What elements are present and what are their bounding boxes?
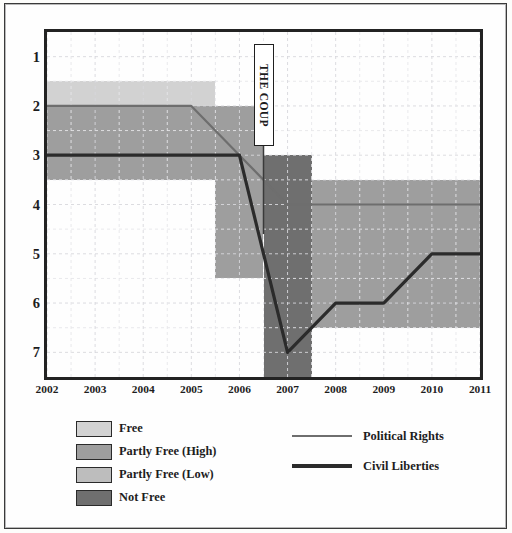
legend-item: Political Rights bbox=[292, 421, 444, 451]
legend-color-swatch bbox=[76, 467, 112, 483]
y-axis-tick-label: 3 bbox=[14, 147, 40, 164]
legend-item: Partly Free (Low) bbox=[76, 463, 217, 486]
legend-item-label: Political Rights bbox=[363, 429, 444, 444]
y-axis-tick-label: 6 bbox=[14, 295, 40, 312]
x-axis-tick-label: 2003 bbox=[84, 383, 107, 395]
y-axis: 1234567 bbox=[8, 29, 40, 380]
legend-color-swatch bbox=[76, 444, 112, 460]
y-axis-tick-label: 2 bbox=[14, 97, 40, 114]
y-axis-tick-label: 5 bbox=[14, 245, 40, 262]
y-axis-tick-label: 4 bbox=[14, 196, 40, 213]
status-band bbox=[47, 81, 215, 106]
coup-annotation-box: THE COUP bbox=[254, 44, 274, 146]
x-axis-tick-label: 2002 bbox=[36, 383, 59, 395]
legend-item: Partly Free (High) bbox=[76, 440, 217, 463]
legend-swatch-group: FreePartly Free (High)Partly Free (Low)N… bbox=[76, 417, 217, 509]
status-band bbox=[264, 155, 312, 377]
x-axis-tick-label: 2004 bbox=[132, 383, 155, 395]
chart-legend: FreePartly Free (High)Partly Free (Low)N… bbox=[44, 413, 483, 523]
coup-annotation-label: THE COUP bbox=[258, 64, 270, 127]
freedom-house-chart-figure: 1234567 THE COUP 20022003200420052006200… bbox=[6, 5, 509, 531]
legend-color-swatch bbox=[76, 421, 112, 437]
legend-item-label: Not Free bbox=[119, 490, 165, 505]
x-axis-tick-label: 2010 bbox=[420, 383, 443, 395]
x-axis-tick-label: 2006 bbox=[228, 383, 251, 395]
legend-item-label: Partly Free (Low) bbox=[119, 467, 214, 482]
legend-color-swatch bbox=[76, 490, 112, 506]
x-axis-tick-label: 2007 bbox=[276, 383, 299, 395]
legend-item: Free bbox=[76, 417, 217, 440]
y-axis-tick-label: 7 bbox=[14, 344, 40, 361]
x-axis-tick-label: 2009 bbox=[372, 383, 395, 395]
legend-item-label: Civil Liberties bbox=[363, 459, 439, 474]
legend-item-label: Partly Free (High) bbox=[119, 444, 217, 459]
legend-item: Not Free bbox=[76, 486, 217, 509]
series-line bbox=[47, 155, 480, 352]
figure-page-frame: 1234567 THE COUP 20022003200420052006200… bbox=[4, 3, 507, 529]
legend-line-swatch bbox=[292, 460, 352, 472]
x-axis-tick-label: 2005 bbox=[180, 383, 203, 395]
legend-line-group: Political RightsCivil Liberties bbox=[292, 421, 444, 481]
legend-line-swatch bbox=[292, 430, 352, 442]
x-axis: 2002200320042005200620072008200920102011 bbox=[44, 383, 483, 405]
legend-item: Civil Liberties bbox=[292, 451, 444, 481]
legend-item-label: Free bbox=[119, 421, 143, 436]
x-axis-tick-label: 2008 bbox=[324, 383, 347, 395]
y-axis-tick-label: 1 bbox=[14, 48, 40, 65]
status-band bbox=[47, 106, 215, 180]
x-axis-tick-label: 2011 bbox=[469, 383, 491, 395]
status-band bbox=[312, 180, 480, 328]
